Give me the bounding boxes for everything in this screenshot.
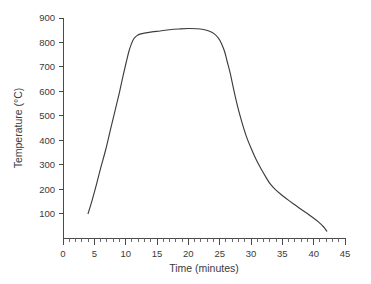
x-axis-tick-label: 40	[308, 248, 319, 259]
y-axis-title: Temperature (°C)	[12, 88, 24, 169]
x-axis-tick-label: 30	[246, 248, 257, 259]
temperature-curve	[88, 29, 327, 232]
temperature-time-line-chart: 100200300400500600700800900 051015202530…	[0, 0, 371, 284]
y-axis-tick-label: 700	[39, 61, 55, 72]
chart-container: 100200300400500600700800900 051015202530…	[0, 0, 371, 284]
x-axis-tick-label: 5	[92, 248, 97, 259]
y-axis-tick-label: 900	[39, 12, 55, 23]
y-axis: 100200300400500600700800900	[39, 12, 63, 238]
x-axis: 051015202530354045	[60, 238, 350, 259]
x-axis-tick-label: 25	[214, 248, 225, 259]
y-axis-tick-label: 500	[39, 110, 55, 121]
y-axis-tick-label: 100	[39, 208, 55, 219]
x-axis-tick-label: 20	[183, 248, 194, 259]
y-axis-tick-label: 400	[39, 135, 55, 146]
x-axis-title: Time (minutes)	[169, 262, 239, 274]
y-axis-tick-label: 600	[39, 86, 55, 97]
x-axis-tick-label: 45	[340, 248, 351, 259]
data-series-group	[88, 29, 327, 232]
y-axis-tick-label: 800	[39, 37, 55, 48]
x-axis-tick-label: 10	[120, 248, 131, 259]
x-axis-tick-label: 0	[60, 248, 65, 259]
y-axis-tick-label: 200	[39, 184, 55, 195]
x-axis-tick-label: 15	[152, 248, 163, 259]
x-axis-tick-label: 35	[277, 248, 288, 259]
y-axis-tick-label: 300	[39, 159, 55, 170]
